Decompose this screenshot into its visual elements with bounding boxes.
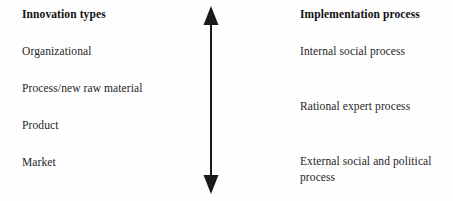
implementation-process-item: Rational expert process (300, 98, 410, 114)
innovation-type-item: Product (22, 117, 58, 133)
implementation-process-heading: Implementation process (300, 8, 420, 20)
innovation-type-item: Organizational (22, 43, 92, 59)
innovation-implementation-diagram: Innovation types Organizational Process/… (0, 0, 453, 201)
implementation-process-item: Internal social process (300, 43, 405, 59)
innovation-type-item: Process/new raw material (22, 80, 143, 96)
double-headed-vertical-arrow-icon (198, 4, 224, 196)
implementation-process-item: External social and political process (300, 153, 440, 185)
innovation-type-item: Market (22, 154, 56, 170)
innovation-types-heading: Innovation types (22, 8, 106, 20)
